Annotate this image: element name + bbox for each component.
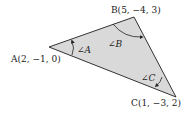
vertex-a-label: A(2, −1, 0) <box>10 54 61 64</box>
angle-a-label: ∠A <box>77 45 92 55</box>
angle-c-label: ∠C <box>141 73 156 83</box>
triangle-diagram: ∠A ∠B ∠C A(2, −1, 0) B(5, −4, 3) C(1, −3… <box>0 0 183 116</box>
angle-b-label: ∠B <box>108 39 123 49</box>
vertex-b-label: B(5, −4, 3) <box>111 5 161 15</box>
vertex-c-label: C(1, −3, 2) <box>131 98 181 108</box>
